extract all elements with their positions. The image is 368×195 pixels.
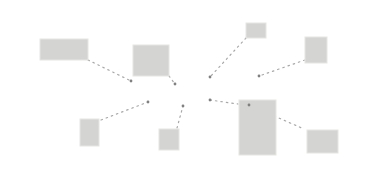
anchor-dot <box>209 99 212 102</box>
placeholder-box <box>246 23 266 38</box>
placeholder-box <box>133 45 169 76</box>
anchor-dot <box>174 83 177 86</box>
placeholder-box <box>307 130 338 153</box>
placeholder-box <box>159 129 179 150</box>
placeholder-box <box>239 100 276 155</box>
dotted-connector-line <box>177 106 183 128</box>
dotted-connector-line <box>210 100 238 104</box>
dotted-connector-line <box>210 38 246 77</box>
anchor-dot <box>258 75 261 78</box>
placeholder-box <box>40 39 88 60</box>
boxes-layer <box>40 23 338 155</box>
anchor-dot <box>248 104 251 107</box>
anchor-dot <box>147 101 150 104</box>
anchor-dot <box>130 80 133 83</box>
placeholder-box <box>305 37 327 63</box>
dotted-connector-line <box>259 60 305 76</box>
dotted-connector-line <box>88 60 131 81</box>
dotted-connector-line <box>169 76 175 84</box>
diagram-canvas <box>0 0 368 195</box>
anchor-dot <box>209 76 212 79</box>
dotted-connector-line <box>101 102 148 120</box>
anchor-dot <box>182 105 185 108</box>
placeholder-box <box>80 119 99 146</box>
